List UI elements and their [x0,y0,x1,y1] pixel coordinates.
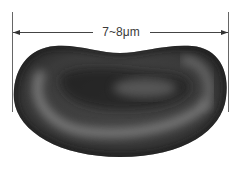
left-arrowhead-icon [13,30,20,35]
dimension-label: 7~8μm [96,25,146,39]
right-arrowhead-icon [221,30,228,35]
red-blood-cell [14,46,227,157]
